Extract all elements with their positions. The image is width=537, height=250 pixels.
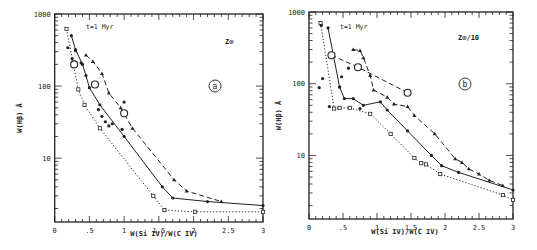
data-point [77, 88, 80, 91]
y-tick-label: 10 [297, 152, 305, 160]
data-point [121, 110, 128, 117]
data-point [511, 198, 514, 201]
metallicity-annotation: Z⊙ [225, 38, 234, 46]
data-point [111, 122, 114, 125]
data-point [404, 89, 411, 96]
data-point [83, 103, 86, 106]
x-tick-label: 2.5 [473, 224, 486, 232]
data-point [347, 67, 350, 70]
data-point [369, 112, 372, 115]
data-point [420, 162, 423, 165]
y-axis-label: W(Hβ) Å [15, 102, 24, 132]
data-point [318, 86, 321, 89]
x-tick-label: 3 [261, 227, 265, 235]
data-point [206, 200, 209, 203]
panel-b: 0.511.522.53100010010W(Si IV)/W(C IV)W(H… [274, 9, 515, 237]
data-point [152, 194, 155, 197]
data-point [328, 52, 335, 59]
data-point [261, 204, 264, 207]
data-point [91, 59, 95, 63]
data-point [320, 24, 323, 27]
y-tick-label: 10 [42, 155, 50, 163]
series-line-dashed [353, 50, 503, 186]
data-point [352, 97, 355, 100]
data-point [501, 194, 504, 197]
figure: 0.511.522.53100010010W(Si IV)/W(C IV)W(H… [0, 0, 537, 250]
data-point [219, 200, 223, 204]
data-point [97, 108, 100, 111]
data-point [354, 64, 361, 71]
y-tick-label: 100 [38, 83, 51, 91]
x-tick-label: .5 [339, 224, 347, 232]
x-tick-label: 2 [443, 224, 447, 232]
series-line-solid [71, 36, 263, 206]
x-axis-label: W(Si IV)/W(C IV) [371, 228, 438, 236]
data-point [84, 53, 88, 57]
y-axis-label: W(Hβ) Å [274, 100, 283, 130]
data-point [261, 210, 264, 213]
time-annotation: t=1 Myr [86, 23, 113, 31]
data-point [338, 106, 341, 109]
data-point [70, 57, 73, 60]
data-point [100, 115, 103, 118]
data-point [333, 107, 336, 110]
data-point [338, 85, 341, 88]
data-point [123, 135, 126, 138]
data-point [98, 103, 101, 106]
panel-label: b [463, 80, 468, 89]
data-point [430, 154, 433, 157]
data-point [104, 120, 107, 123]
data-point [193, 210, 196, 213]
data-point [511, 188, 514, 191]
data-point [161, 185, 164, 188]
data-point [348, 106, 351, 109]
data-point [386, 108, 389, 111]
data-point [439, 172, 442, 175]
data-point [457, 171, 460, 174]
data-point [70, 34, 73, 37]
data-point [340, 75, 343, 78]
data-point [79, 61, 82, 64]
data-point [123, 100, 126, 103]
data-point [321, 77, 324, 80]
data-point [362, 104, 365, 107]
data-point [91, 81, 98, 88]
data-point [413, 156, 416, 159]
series-line-solid [328, 28, 513, 190]
data-point [379, 100, 382, 103]
data-point [120, 128, 123, 131]
x-tick-label: 0 [307, 224, 311, 232]
data-point [406, 105, 410, 109]
plot-frame [309, 12, 513, 219]
data-point [424, 163, 427, 166]
panel-a: 0.511.522.53100010010W(Si IV)/W(C IV)W(H… [15, 11, 265, 239]
y-tick-label: 1000 [288, 9, 305, 17]
data-point [163, 209, 166, 212]
x-tick-label: 1 [122, 227, 126, 235]
x-tick-label: 0 [53, 227, 57, 235]
data-point [361, 56, 365, 60]
data-point [119, 106, 123, 110]
x-tick-label: 2.5 [222, 227, 235, 235]
x-axis-label: W(Si IV)/W(C IV) [130, 230, 197, 238]
data-point [358, 107, 361, 110]
x-tick-label: .5 [85, 227, 93, 235]
y-tick-label: 100 [292, 80, 305, 88]
time-annotation: t=1 Myr [340, 23, 367, 31]
data-point [107, 91, 111, 95]
series-line-dotted [67, 29, 263, 212]
data-point [71, 61, 78, 68]
series-line-dotted [321, 23, 513, 200]
series-line-dashed [86, 55, 221, 202]
data-point [343, 97, 346, 100]
data-point [440, 164, 443, 167]
metallicity-annotation: Z⊙/10 [458, 34, 479, 42]
data-point [107, 124, 110, 127]
data-point [84, 74, 87, 77]
data-point [328, 105, 331, 108]
x-tick-label: 3 [511, 224, 515, 232]
data-point [467, 167, 471, 171]
data-point [74, 49, 77, 52]
data-point [171, 196, 174, 199]
data-point [358, 49, 362, 53]
